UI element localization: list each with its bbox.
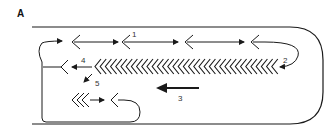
label-5: 5 <box>95 79 100 88</box>
hatched-chevron-band <box>95 59 278 74</box>
label-3: 3 <box>178 94 183 103</box>
diagram-canvas: A <box>0 0 334 132</box>
lower-left-strand <box>34 60 140 122</box>
arrow-3 <box>156 83 199 93</box>
label-2: 2 <box>283 56 288 65</box>
label-4: 4 <box>81 56 86 65</box>
label-1: 1 <box>132 30 137 39</box>
panel-label: A <box>17 8 24 19</box>
